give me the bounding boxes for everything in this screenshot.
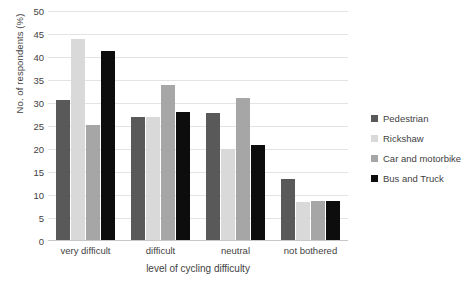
y-axis-tick-label: 10 — [33, 190, 44, 201]
bar-group — [198, 11, 273, 241]
bar-group — [48, 11, 123, 241]
bar-slot — [281, 11, 295, 241]
bar-slot — [86, 11, 100, 241]
bar[interactable] — [176, 112, 190, 241]
x-axis-tick-label: very difficult — [48, 245, 123, 256]
bar[interactable] — [146, 117, 160, 241]
bar[interactable] — [221, 149, 235, 241]
bar[interactable] — [56, 100, 70, 241]
legend-swatch-icon — [371, 115, 378, 122]
y-axis-tick-label: 15 — [33, 167, 44, 178]
legend-item[interactable]: Rickshaw — [371, 128, 466, 148]
bar-slot — [251, 11, 265, 241]
x-axis-baseline — [48, 240, 348, 241]
bar-group — [123, 11, 198, 241]
bar-slot — [71, 11, 85, 241]
bar-slot — [56, 11, 70, 241]
bar[interactable] — [206, 113, 220, 241]
bar[interactable] — [131, 117, 145, 241]
legend: PedestrianRickshawCar and motorbikeBus a… — [371, 108, 466, 188]
plot-area — [48, 11, 348, 241]
x-axis-tick-label: neutral — [198, 245, 273, 256]
bar[interactable] — [311, 201, 325, 241]
x-axis-tick-label: difficult — [123, 245, 198, 256]
legend-swatch-icon — [371, 155, 378, 162]
bar[interactable] — [71, 39, 85, 241]
bar-groups — [48, 11, 348, 241]
bar[interactable] — [101, 51, 115, 241]
bar[interactable] — [296, 202, 310, 241]
y-axis-tick-label: 25 — [33, 121, 44, 132]
y-axis-tick-label: 5 — [39, 213, 44, 224]
x-axis-title: level of cycling difficulty — [48, 263, 348, 274]
y-axis-tick-label: 50 — [33, 6, 44, 17]
bar-slot — [221, 11, 235, 241]
bar-slot — [161, 11, 175, 241]
bar[interactable] — [161, 85, 175, 241]
y-axis-tick-label: 30 — [33, 98, 44, 109]
legend-swatch-icon — [371, 135, 378, 142]
y-axis-tick-label: 40 — [33, 52, 44, 63]
bar-slot — [146, 11, 160, 241]
bar[interactable] — [281, 179, 295, 241]
y-axis-tick-label: 35 — [33, 75, 44, 86]
legend-label: Car and motorbike — [383, 153, 461, 164]
bar-group — [273, 11, 348, 241]
bar-slot — [236, 11, 250, 241]
legend-label: Bus and Truck — [383, 173, 444, 184]
legend-item[interactable]: Pedestrian — [371, 108, 466, 128]
bar[interactable] — [326, 201, 340, 241]
legend-item[interactable]: Car and motorbike — [371, 148, 466, 168]
x-axis-tick-labels: very difficultdifficultneutralnot bother… — [48, 245, 348, 256]
bar-slot — [131, 11, 145, 241]
bar-chart-figure: No. of respondents (%) 50454035302520151… — [0, 0, 466, 284]
bar[interactable] — [86, 125, 100, 241]
y-axis-tick-label: 20 — [33, 144, 44, 155]
bar-slot — [206, 11, 220, 241]
bar-slot — [296, 11, 310, 241]
legend-label: Rickshaw — [383, 133, 424, 144]
legend-item[interactable]: Bus and Truck — [371, 168, 466, 188]
bar-slot — [176, 11, 190, 241]
bar[interactable] — [251, 145, 265, 241]
y-axis-tick-label: 45 — [33, 29, 44, 40]
y-axis-tick-labels: 50454035302520151050 — [22, 0, 44, 284]
y-axis-tick-label: 0 — [39, 236, 44, 247]
legend-label: Pedestrian — [383, 113, 428, 124]
bar-slot — [101, 11, 115, 241]
legend-swatch-icon — [371, 175, 378, 182]
bar-slot — [311, 11, 325, 241]
bar[interactable] — [236, 98, 250, 241]
bar-slot — [326, 11, 340, 241]
x-axis-tick-label: not bothered — [273, 245, 348, 256]
